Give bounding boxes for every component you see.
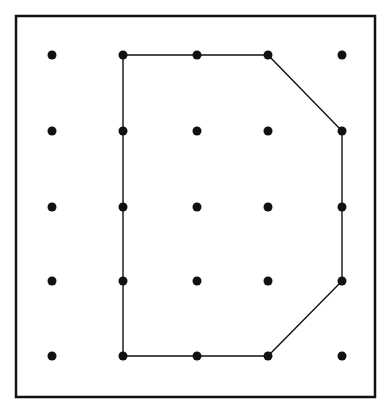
grid-dot bbox=[193, 51, 202, 60]
grid-dot bbox=[264, 127, 273, 136]
grid-dot bbox=[48, 277, 57, 286]
grid-dot bbox=[338, 277, 347, 286]
grid-dot bbox=[119, 277, 128, 286]
grid-dots bbox=[48, 51, 347, 361]
grid-dot bbox=[338, 352, 347, 361]
grid-dot bbox=[193, 352, 202, 361]
grid-dot bbox=[193, 277, 202, 286]
grid-dot bbox=[119, 203, 128, 212]
dot-grid-diagram bbox=[0, 0, 388, 411]
grid-dot bbox=[264, 352, 273, 361]
grid-dot bbox=[48, 127, 57, 136]
grid-dot bbox=[264, 51, 273, 60]
grid-dot bbox=[338, 203, 347, 212]
grid-dot bbox=[119, 127, 128, 136]
polygon-shape bbox=[123, 55, 342, 356]
grid-dot bbox=[264, 203, 273, 212]
grid-dot bbox=[119, 51, 128, 60]
grid-dot bbox=[119, 352, 128, 361]
grid-dot bbox=[48, 203, 57, 212]
grid-dot bbox=[338, 51, 347, 60]
grid-dot bbox=[48, 352, 57, 361]
grid-dot bbox=[48, 51, 57, 60]
grid-dot bbox=[193, 127, 202, 136]
grid-dot bbox=[264, 277, 273, 286]
grid-dot bbox=[193, 203, 202, 212]
grid-dot bbox=[338, 127, 347, 136]
